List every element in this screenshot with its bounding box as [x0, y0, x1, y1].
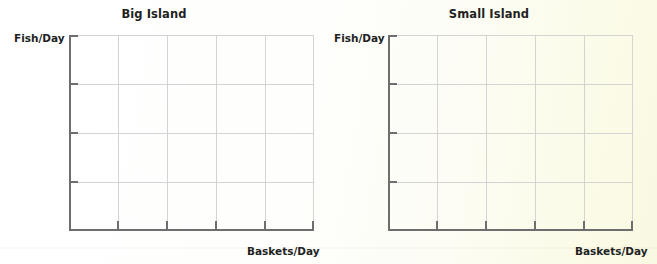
- plot-area-big-island: [69, 35, 314, 231]
- x-axis-label-small-island: Baskets/Day: [575, 245, 648, 257]
- grid-big-island: [69, 35, 314, 231]
- x-axis-label-big-island: Baskets/Day: [247, 245, 320, 257]
- chart-panel-big-island: Big Island Fish/Day: [0, 0, 328, 264]
- plot-area-small-island: [388, 35, 633, 231]
- chart-title-small-island: Small Island: [325, 7, 653, 21]
- y-axis-label-small-island: Fish/Day: [334, 32, 384, 44]
- y-axis-label-big-island: Fish/Day: [14, 32, 64, 44]
- grid-small-island: [388, 35, 633, 231]
- chart-title-big-island: Big Island: [0, 7, 318, 21]
